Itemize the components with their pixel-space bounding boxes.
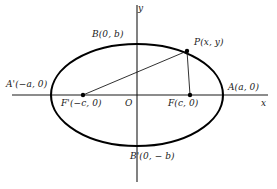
- point-p-marker: [185, 49, 189, 53]
- covertex-bottom-label: B'(0, − b): [130, 152, 175, 161]
- focus-left-label: F'(−c, 0): [61, 99, 102, 108]
- focal-radius-right-segment: [187, 51, 190, 95]
- covertex-top-label: B(0, b): [92, 30, 124, 39]
- focus-right-label: F(c, 0): [168, 99, 198, 108]
- vertex-left-label: A'(−a, 0): [6, 80, 47, 89]
- ellipse-figure: y x B(0, b) B'(0, − b) A(a, 0) A'(−a, 0)…: [0, 0, 277, 189]
- focus-left-point: [81, 93, 85, 97]
- y-axis-label: y: [138, 4, 143, 13]
- origin-label: O: [125, 99, 132, 108]
- x-axis-label: x: [261, 99, 266, 108]
- focus-right-point: [188, 93, 192, 97]
- vertex-right-label: A(a, 0): [228, 83, 259, 92]
- focal-radius-left-segment: [83, 51, 187, 95]
- point-p-label: P(x, y): [194, 38, 224, 47]
